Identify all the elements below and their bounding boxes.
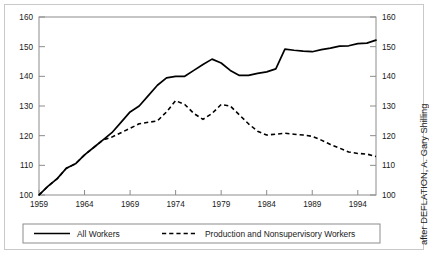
y-tick-label-left: 160 [19, 13, 33, 22]
line-chart-svg: 100110120130140150160 100110120130140150… [0, 0, 429, 255]
legend-label-production-nonsupervisory: Production and Nonsupervisory Workers [205, 229, 355, 239]
y-tick-label-right: 150 [382, 43, 396, 52]
x-tick-label: 1989 [303, 200, 322, 209]
chart-figure: 100110120130140150160 100110120130140150… [0, 0, 429, 255]
x-tick-label: 1969 [121, 200, 140, 209]
legend-label-all-workers: All Workers [77, 229, 120, 239]
y-tick-label-left: 130 [19, 102, 33, 111]
chart-plot-area: 100110120130140150160 100110120130140150… [0, 0, 429, 255]
y-tick-label-left: 110 [20, 161, 33, 170]
y-axis-right-labels: 100110120130140150160 [382, 13, 396, 200]
y-tick-label-left: 150 [19, 43, 33, 52]
plot-frame [39, 17, 376, 195]
x-tick-label: 1984 [258, 200, 277, 209]
x-axis-labels: 19591964196919741979198419891994 [30, 200, 367, 209]
x-tick-label: 1964 [75, 200, 94, 209]
y-tick-label-left: 140 [19, 72, 33, 81]
x-tick-label: 1979 [212, 200, 231, 209]
y-tick-label-left: 100 [19, 191, 33, 200]
y-axis-left-labels: 100110120130140150160 [19, 13, 33, 200]
x-tick-label: 1994 [349, 200, 368, 209]
y-tick-label-left: 120 [19, 132, 33, 141]
x-tick-label: 1959 [30, 200, 49, 209]
y-tick-label-right: 100 [382, 191, 396, 200]
y-tick-label-right: 130 [382, 102, 396, 111]
y-tick-label-right: 160 [382, 13, 396, 22]
x-tick-label: 1974 [167, 200, 186, 209]
y-tick-label-right: 110 [382, 161, 395, 170]
source-credit-label: after DEFLATION, A. Gary Shilling [419, 104, 429, 245]
y-tick-label-right: 120 [382, 132, 396, 141]
y-tick-label-right: 140 [382, 72, 396, 81]
